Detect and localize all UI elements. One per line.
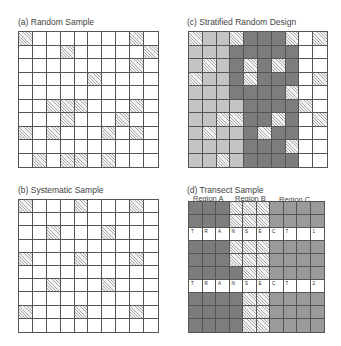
grid-cell-white: [19, 279, 33, 292]
grid-cell-hatch: [75, 100, 89, 114]
grid-cell-hatch: [102, 127, 116, 141]
grid-cell-transect: E: [257, 228, 271, 241]
grid-cell-white: [88, 100, 102, 114]
grid-cell-medium: [270, 306, 284, 319]
grid-cell-white: [47, 59, 61, 73]
grid-cell-white: [299, 73, 313, 87]
grid-cell-hatch: [189, 32, 203, 46]
grid-cell-white: [47, 200, 61, 213]
grid-cell-hatch: [75, 200, 89, 213]
grid-cell-medium: [297, 319, 311, 332]
grid-cell-white: [47, 140, 61, 154]
grid-cell-medium: [270, 254, 284, 267]
grid-cell-hatch: [61, 154, 75, 168]
grid-cell-dark: [258, 73, 272, 87]
grid-cell-dark: [203, 254, 217, 267]
grid-cell-hatch: [33, 154, 47, 168]
grid-cell-white: [47, 292, 61, 305]
grid-cell-medium: [297, 293, 311, 306]
transect-letter: R: [205, 282, 208, 287]
grid-cell-white: [144, 86, 158, 100]
grid-cell-white: [116, 100, 130, 114]
grid-cell-hatch: [88, 73, 102, 87]
grid-cell-transect: C: [270, 280, 284, 293]
grid-cell-hatch: [102, 154, 116, 168]
grid-cell-hatch: [286, 140, 300, 154]
grid-cell-white: [19, 86, 33, 100]
grid-cell-light: [203, 73, 217, 87]
sample-grid: [18, 199, 159, 333]
grid-cell-white: [61, 226, 75, 239]
grid-cell-hatch: [102, 279, 116, 292]
grid-cell-white: [102, 59, 116, 73]
grid-cell-hatch: [313, 113, 327, 127]
grid-cell-dark: [189, 254, 203, 267]
grid-cell-dark: [216, 241, 230, 254]
grid-cell-white: [19, 59, 33, 73]
grid-cell-hatch: [230, 113, 244, 127]
grid-cell-white: [33, 46, 47, 60]
grid-cell-hatch: [257, 319, 271, 332]
grid-cell-medium: [270, 293, 284, 306]
grid-cell-medium: [284, 306, 298, 319]
grid-cell-hatch: [243, 293, 257, 306]
grid-cell-white: [116, 46, 130, 60]
grid-cell-dark: [216, 215, 230, 228]
grid-cell-hatch: [243, 215, 257, 228]
grid-cell-white: [75, 73, 89, 87]
grid-cell-white: [144, 154, 158, 168]
grid-cell-white: [75, 32, 89, 46]
grid-cell-light: [203, 100, 217, 114]
grid-cell-white: [75, 279, 89, 292]
grid-cell-medium: [311, 254, 325, 267]
grid-cell-white: [47, 266, 61, 279]
grid-cell-transect: T: [189, 280, 203, 293]
grid-cell-dark: [244, 46, 258, 60]
grid-cell-dark: [203, 241, 217, 254]
grid-cell-white: [313, 86, 327, 100]
grid-cell-dark: [272, 86, 286, 100]
grid-cell-hatch: [130, 306, 144, 319]
grid-cell-white: [61, 253, 75, 266]
grid-cell-white: [144, 32, 158, 46]
grid-cell-dark: [216, 319, 230, 332]
grid-cell-white: [88, 154, 102, 168]
grid-cell-medium: [284, 202, 298, 215]
grid-cell-white: [144, 253, 158, 266]
grid-cell-white: [88, 306, 102, 319]
panel-title: (c) Stratified Random Design: [187, 17, 296, 27]
grid-cell-white: [116, 240, 130, 253]
grid-cell-white: [130, 154, 144, 168]
grid-cell-hatch: [75, 306, 89, 319]
grid-cell-white: [313, 59, 327, 73]
grid-cell-white: [299, 32, 313, 46]
grid-cell-white: [75, 213, 89, 226]
grid-cell-white: [116, 200, 130, 213]
transect-letter: E: [259, 282, 262, 287]
grid-cell-light: [189, 59, 203, 73]
grid-cell-white: [47, 240, 61, 253]
grid-cell-dark: [216, 254, 230, 267]
grid-cell-transect: C: [270, 228, 284, 241]
grid-cell-dark: [244, 127, 258, 141]
grid-cell-medium: [284, 241, 298, 254]
grid-cell-white: [19, 226, 33, 239]
grid-cell-white: [88, 279, 102, 292]
grid-cell-white: [313, 154, 327, 168]
grid-cell-light: [230, 154, 244, 168]
sample-grid: [188, 31, 328, 168]
grid-cell-dark: [244, 100, 258, 114]
grid-cell-white: [33, 213, 47, 226]
grid-cell-dark: [230, 293, 244, 306]
grid-cell-white: [19, 266, 33, 279]
grid-cell-white: [61, 279, 75, 292]
grid-cell-white: [130, 73, 144, 87]
grid-cell-transect: 2: [311, 280, 325, 293]
panel-title: (b) Systematic Sample: [18, 185, 104, 195]
grid-cell-white: [19, 319, 33, 332]
grid-cell-dark: [189, 319, 203, 332]
grid-cell-white: [144, 266, 158, 279]
grid-cell-white: [19, 73, 33, 87]
grid-cell-white: [313, 100, 327, 114]
grid-cell-dark: [272, 46, 286, 60]
